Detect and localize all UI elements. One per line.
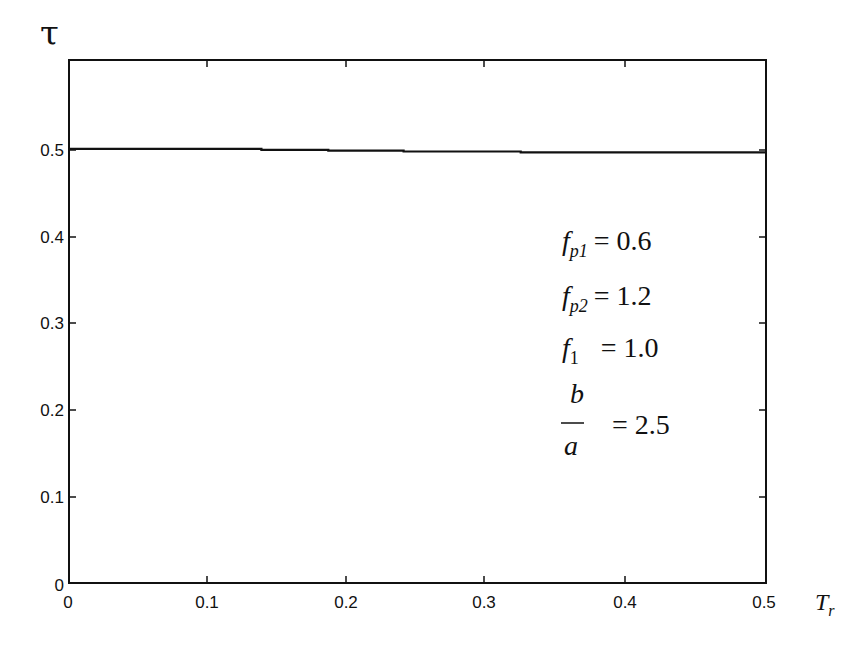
y-tick-label: 0.5	[40, 141, 64, 160]
parameter-annotations: fp1= 0.6 fp2= 1.2 f1= 1.0 b a = 2.5	[561, 225, 670, 461]
y-ticks	[69, 150, 766, 497]
y-tick-label: 0.4	[40, 228, 64, 247]
y-tick-labels: 0 0.1 0.2 0.3 0.4 0.5	[40, 141, 64, 595]
x-ticks	[207, 60, 625, 583]
x-tick-label: 0	[63, 593, 72, 612]
x-tick-label: 0.4	[613, 593, 637, 612]
annotation-a-denominator: a	[564, 430, 578, 461]
x-tick-label: 0.1	[195, 593, 219, 612]
x-tick-label: 0.5	[752, 593, 776, 612]
x-tick-label: 0.3	[472, 593, 496, 612]
x-tick-label: 0.2	[334, 593, 358, 612]
x-tick-labels: 0 0.1 0.2 0.3 0.4 0.5	[63, 593, 776, 612]
y-tick-label: 0.3	[40, 314, 64, 333]
y-tick-label: 0.1	[40, 488, 64, 507]
x-axis-title: Tr	[815, 589, 835, 619]
annotation-ba-value: = 2.5	[612, 409, 670, 440]
annotation-fp2: fp2= 1.2	[562, 280, 652, 316]
y-axis-title: τ	[40, 13, 59, 53]
plot-frame	[69, 60, 766, 583]
annotation-b-numerator: b	[570, 378, 584, 409]
annotation-f1: f1= 1.0	[562, 332, 659, 368]
data-line	[69, 149, 766, 153]
y-tick-label: 0.2	[40, 401, 64, 420]
annotation-fp1: fp1= 0.6	[562, 225, 652, 261]
chart: τ 0 0.1 0.2 0.3 0.4 0.5 0 0.1 0.2 0.3 0.…	[0, 0, 862, 645]
